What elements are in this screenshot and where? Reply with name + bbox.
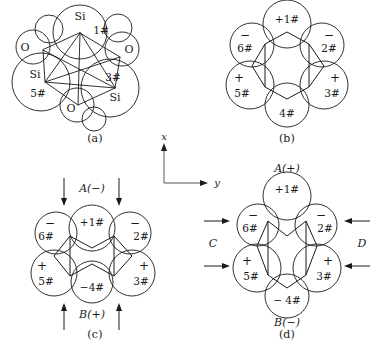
axis-label-x: x xyxy=(161,131,167,142)
panel-a-packed-sphere-model: Si Si Si O O O 1# 3# 5# (a) xyxy=(2,2,188,154)
load-arrow-bottom-right-head xyxy=(116,303,122,311)
load-label-bottom: B(+) xyxy=(78,308,105,321)
label-sign-6: − xyxy=(248,208,258,222)
label-site-4: − 4# xyxy=(273,294,301,306)
site-sphere-3 xyxy=(109,250,155,296)
load-arrow-top-left-head xyxy=(61,198,67,206)
label-site-5: 5# xyxy=(38,275,53,287)
label-sign-5: + xyxy=(242,254,252,268)
panel-d-drawing: A(+) C D +1# − xyxy=(196,158,378,330)
label-sign-6: − xyxy=(240,28,250,42)
label-site-5: 5# xyxy=(234,87,249,99)
panel-c-caption: (c) xyxy=(2,328,188,341)
label-site-2: 2# xyxy=(321,42,336,54)
load-arrow-left-upper-head xyxy=(222,218,230,224)
label-site-5: 5# xyxy=(243,270,258,282)
label-site-1: +1# xyxy=(80,216,104,228)
load-arrow-left-lower-head xyxy=(222,263,230,269)
panel-b-hexagonal-ring: +1# − 6# − 2# + 5# + 3# 4# (b) xyxy=(196,2,378,154)
label-sign-3: + xyxy=(139,259,149,273)
label-index-5: 5# xyxy=(30,87,45,99)
label-si-top: Si xyxy=(74,10,86,23)
label-sign-3: + xyxy=(323,254,333,268)
label-si-left: Si xyxy=(29,68,41,81)
label-o-right: O xyxy=(124,43,133,56)
panel-c-drawing: A(−) +1# − 6# − 2# + 5# + 3# −4# xyxy=(2,178,188,330)
panel-c-vertical-compression: A(−) +1# − 6# − 2# + 5# + 3# −4# xyxy=(2,178,188,350)
label-o-bottom: O xyxy=(66,102,75,115)
site-sphere-5 xyxy=(226,61,274,109)
label-o-upper-left: O xyxy=(20,41,29,54)
label-sign-2: − xyxy=(324,28,334,42)
panel-d-caption: (d) xyxy=(196,328,378,341)
label-index-1: 1# xyxy=(93,24,108,36)
si-sphere-left xyxy=(12,53,70,111)
label-sign-6: − xyxy=(45,216,55,230)
panel-a-drawing: Si Si Si O O O 1# 3# 5# xyxy=(2,2,188,134)
label-site-6: 6# xyxy=(242,222,257,234)
load-arrow-right-lower-head xyxy=(344,263,352,269)
label-sign-5: + xyxy=(37,259,47,273)
label-sign-2: − xyxy=(316,208,326,222)
label-site-1: +1# xyxy=(275,183,299,195)
label-site-6: 6# xyxy=(237,42,252,54)
load-arrow-top-right-head xyxy=(116,198,122,206)
label-sign-2: − xyxy=(130,216,140,230)
panel-b-drawing: +1# − 6# − 2# + 5# + 3# 4# xyxy=(196,2,378,134)
label-site-4: 4# xyxy=(279,107,294,119)
label-sign-3: + xyxy=(330,71,340,85)
label-site-4: −4# xyxy=(80,281,104,293)
panel-d-horizontal-compression: A(+) C D +1# − xyxy=(196,158,378,350)
load-label-top: A(−) xyxy=(78,182,105,195)
label-si-lower-right: Si xyxy=(109,91,121,104)
label-site-3: 3# xyxy=(324,87,339,99)
load-label-left: C xyxy=(209,237,218,250)
label-site-2: 2# xyxy=(133,230,148,242)
site-sphere-5 xyxy=(233,244,281,292)
label-site-3: 3# xyxy=(316,270,331,282)
load-arrow-bottom-left-head xyxy=(61,303,67,311)
axis-arrow-x xyxy=(161,143,167,151)
label-site-1: +1# xyxy=(275,13,299,25)
figure-root: Si Si Si O O O 1# 3# 5# (a) + xyxy=(0,0,379,351)
label-sign-5: + xyxy=(234,71,244,85)
load-label-right: D xyxy=(357,237,367,250)
load-arrow-right-upper-head xyxy=(344,218,352,224)
label-site-3: 3# xyxy=(133,275,148,287)
label-site-2: 2# xyxy=(317,222,332,234)
label-index-3: 3# xyxy=(105,71,120,83)
label-site-6: 6# xyxy=(38,230,53,242)
